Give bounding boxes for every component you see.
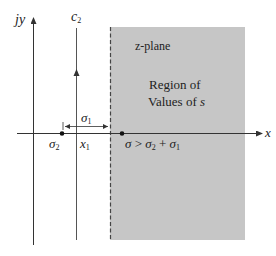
convergence-condition-label: σ > σ2 + σ1 [125,137,180,152]
imaginary-axis-label: jy [15,13,25,27]
contour-direction-arrow-icon [74,69,80,76]
jy-text: jy [15,12,25,27]
z-plane-diagram: jy c2 z-plane Region of Values of s σ1 σ… [0,0,276,256]
region-label-line2: Values of s [148,95,205,108]
real-axis-label: x [265,126,271,139]
x1-label: x1 [80,137,90,152]
z-plane-label: z-plane [135,40,170,52]
sigma1-label: σ1 [81,111,91,126]
contour-c2-label: c2 [71,10,81,25]
c-subscript: 2 [77,16,81,25]
sigma2-point [60,131,65,136]
sigma2-label: σ2 [49,137,59,152]
sigma-point [120,131,125,136]
region-label-line1: Region of [149,78,201,91]
